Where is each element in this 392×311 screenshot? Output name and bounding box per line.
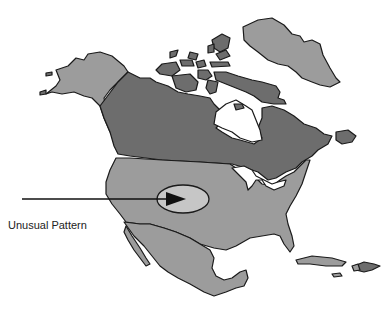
arctic-island bbox=[180, 60, 194, 66]
jamaica-island bbox=[332, 273, 342, 277]
north-america-map bbox=[0, 0, 392, 311]
greenland-region bbox=[243, 18, 340, 87]
arctic-island bbox=[196, 60, 206, 68]
arctic-island bbox=[170, 50, 178, 58]
arctic-island bbox=[206, 80, 218, 94]
arctic-island bbox=[156, 62, 180, 76]
arctic-island bbox=[212, 34, 230, 52]
cuba-island bbox=[296, 256, 346, 266]
aleutian-island bbox=[46, 72, 52, 76]
arctic-island bbox=[172, 74, 198, 92]
arctic-island bbox=[210, 62, 230, 67]
arctic-island bbox=[216, 50, 230, 60]
arctic-island bbox=[198, 70, 212, 80]
arctic-island bbox=[208, 44, 214, 53]
arctic-island bbox=[188, 52, 198, 60]
newfoundland-region bbox=[336, 130, 356, 144]
annotation-label: Unusual Pattern bbox=[8, 219, 87, 231]
baffin-island bbox=[214, 72, 286, 104]
hispaniola-west bbox=[352, 264, 360, 271]
aleutian-island bbox=[40, 90, 46, 95]
